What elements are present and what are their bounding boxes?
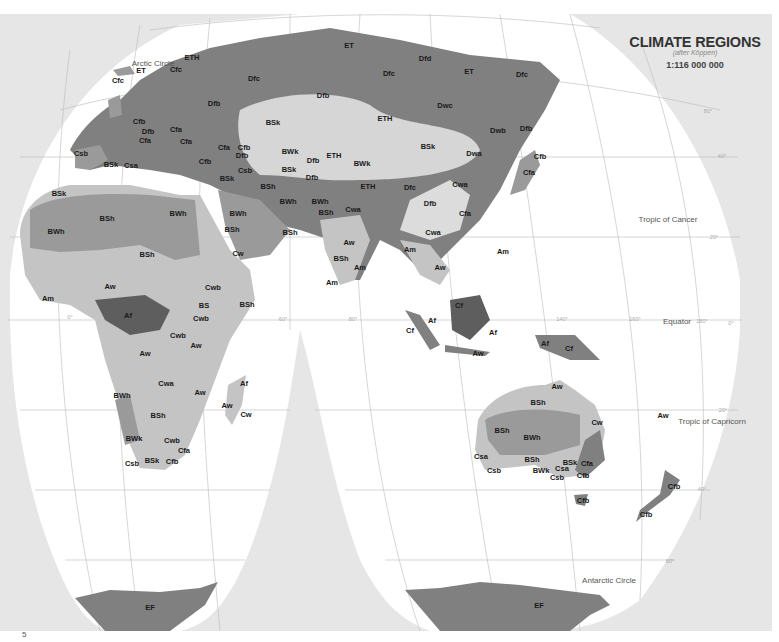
climate-label-dfb: Dfb — [142, 127, 155, 136]
degree-label: 40° — [698, 486, 706, 492]
climate-label-ef: EF — [145, 603, 155, 612]
degree-label: 20° — [710, 234, 718, 240]
climate-label-cfa: Cfa — [218, 143, 230, 152]
climate-label-cwb: Cwb — [205, 283, 221, 292]
climate-label-af: Af — [541, 339, 549, 348]
climate-label-dfb: Dfb — [317, 91, 330, 100]
climate-label-dfb: Dfb — [208, 99, 221, 108]
map-title: CLIMATE REGIONS — [625, 34, 765, 50]
climate-label-cwa: Cwa — [425, 228, 440, 237]
degree-label: 60° — [279, 316, 287, 322]
climate-label-bsk: BSk — [282, 165, 297, 174]
climate-label-aw: Aw — [343, 238, 354, 247]
climate-label-eth: ETH — [378, 114, 393, 123]
climate-label-bsh: BSh — [240, 300, 255, 309]
climate-label-eth: ETH — [361, 182, 376, 191]
climate-label-bsh: BSh — [100, 214, 115, 223]
climate-label-bwh: BWh — [311, 197, 328, 206]
climate-label-bwh: BWh — [279, 197, 296, 206]
climate-label-bsk: BSk — [104, 160, 119, 169]
climate-label-csb: Csb — [238, 166, 252, 175]
climate-label-cfc: Cfc — [170, 65, 182, 74]
climate-label-bs: BS — [199, 301, 209, 310]
climate-label-csa: Csa — [124, 161, 138, 170]
climate-label-bwh: BWh — [113, 391, 130, 400]
climate-label-af: Af — [428, 316, 436, 325]
climate-label-bwk: BWk — [354, 159, 371, 168]
climate-label-cwb: Cwb — [193, 314, 209, 323]
climate-label-eth: ETH — [327, 151, 342, 160]
antarctic-circle-label: Antarctic Circle — [582, 576, 636, 585]
tropic-of-capricorn-label: Tropic of Capricorn — [678, 417, 746, 426]
climate-label-cf: Cf — [455, 301, 463, 310]
climate-label-aw: Aw — [434, 263, 445, 272]
climate-label-cf: Cf — [565, 344, 573, 353]
climate-label-cfa: Cfa — [139, 136, 151, 145]
climate-label-dfb: Dfb — [520, 124, 533, 133]
climate-label-eth: ETH — [185, 53, 200, 62]
climate-label-bsh: BSh — [140, 250, 155, 259]
climate-label-dwb: Dwb — [490, 126, 506, 135]
climate-label-am: Am — [497, 247, 509, 256]
degree-label: 60° — [666, 558, 674, 564]
climate-label-am: Am — [42, 294, 54, 303]
climate-label-cfa: Cfa — [459, 209, 471, 218]
climate-label-cfb: Cfb — [577, 471, 590, 480]
map-subtitle: (after Köppen) — [625, 49, 765, 56]
degree-label: 0° — [67, 314, 72, 320]
climate-label-et: ET — [344, 41, 354, 50]
climate-label-cfa: Cfa — [178, 446, 190, 455]
degree-label: 160° — [629, 316, 640, 322]
climate-label-bsh: BSh — [261, 182, 276, 191]
climate-label-bsh: BSh — [151, 411, 166, 420]
climate-label-bwh: BWh — [47, 227, 64, 236]
climate-label-bsh: BSh — [334, 254, 349, 263]
climate-label-bwk: BWk — [126, 434, 143, 443]
climate-label-af: Af — [124, 311, 132, 320]
climate-label-csb: Csb — [487, 466, 501, 475]
climate-label-cfb: Cfb — [640, 510, 653, 519]
degree-label: 0° — [728, 320, 733, 326]
degree-label: 80° — [349, 316, 357, 322]
climate-label-af: Af — [489, 328, 497, 337]
climate-label-bsh: BSh — [495, 426, 510, 435]
climate-label-bsh: BSh — [525, 455, 540, 464]
climate-label-aw: Aw — [551, 382, 562, 391]
climate-label-dfc: Dfc — [383, 69, 395, 78]
climate-label-dfd: Dfd — [419, 54, 432, 63]
degree-label: 20° — [719, 407, 727, 413]
climate-label-bsk: BSk — [145, 456, 160, 465]
climate-label-cfb: Cfb — [133, 117, 146, 126]
climate-label-bsk: BSk — [266, 118, 281, 127]
climate-label-aw: Aw — [139, 349, 150, 358]
climate-label-cfb: Cfb — [534, 152, 547, 161]
climate-label-dfc: Dfc — [516, 70, 528, 79]
climate-label-aw: Aw — [190, 341, 201, 350]
climate-label-bsh: BSh — [531, 398, 546, 407]
climate-label-bsh: BSh — [225, 225, 240, 234]
climate-label-af: Af — [240, 379, 248, 388]
climate-label-dfb: Dfb — [424, 199, 437, 208]
climate-label-cfa: Cfa — [170, 125, 182, 134]
tropic-of-cancer-label: Tropic of Cancer — [639, 215, 698, 224]
climate-label-cw: Cw — [232, 249, 243, 258]
climate-label-cwa: Cwa — [345, 205, 360, 214]
climate-label-cfb: Cfb — [668, 482, 681, 491]
climate-label-cwa: Cwa — [452, 180, 467, 189]
climate-label-bsk: BSk — [220, 174, 235, 183]
climate-label-bwh: BWh — [229, 209, 246, 218]
degree-label: 140° — [556, 316, 567, 322]
map-scale: 1:116 000 000 — [625, 60, 765, 70]
climate-label-et: ET — [464, 67, 474, 76]
climate-label-cwa: Cwa — [158, 379, 173, 388]
equator-label: Equator — [663, 317, 691, 326]
climate-label-dfb: Dfb — [307, 156, 320, 165]
climate-label-csa: Csa — [555, 464, 569, 473]
climate-label-bwk: BWk — [533, 466, 550, 475]
climate-label-am: Am — [404, 245, 416, 254]
climate-label-cfa: Cfa — [581, 459, 593, 468]
climate-label-csb: Csb — [74, 149, 88, 158]
climate-label-am: Am — [326, 278, 338, 287]
climate-label-bwk: BWk — [282, 147, 299, 156]
climate-label-bsh: BSh — [319, 208, 334, 217]
